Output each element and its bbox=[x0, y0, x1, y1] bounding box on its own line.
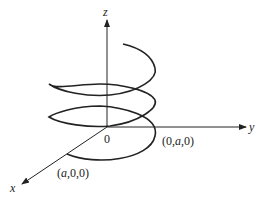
z-axis-label: z bbox=[102, 5, 108, 19]
helix-curve bbox=[49, 44, 155, 160]
y-axis-label: y bbox=[248, 120, 255, 134]
x-axis-label: x bbox=[9, 181, 16, 195]
point-0a0-label: (0,a,0) bbox=[162, 134, 194, 148]
point-a00-label: (a,0,0) bbox=[57, 166, 89, 180]
origin-label: 0 bbox=[104, 132, 110, 146]
helix-diagram: z y x 0 (0,a,0) (a,0,0) bbox=[0, 0, 266, 203]
